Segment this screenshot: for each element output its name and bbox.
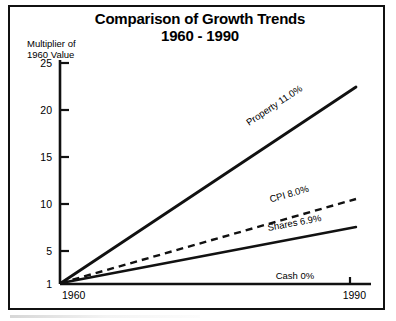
y-tick-label-25: 25	[40, 57, 52, 69]
y-tick-label-20: 20	[40, 104, 52, 116]
y-tick-label-1: 1	[46, 278, 52, 290]
y-tick-label-5: 5	[46, 245, 52, 257]
series-label-cpi: CPI 8.0%	[268, 183, 310, 205]
growth-trends-chart: Comparison of Growth Trends 1960 - 1990 …	[0, 0, 396, 321]
y-tick-label-15: 15	[40, 151, 52, 163]
series-line-property	[61, 87, 356, 283]
x-tick-label-1960: 1960	[62, 289, 86, 301]
bottom-edge-artifact	[10, 315, 200, 318]
y-tick-label-10: 10	[40, 198, 52, 210]
x-tick-label-1990: 1990	[343, 289, 367, 301]
plot-area: 25 20 15 10 5 1 1960 1990 Property 11.0%…	[0, 0, 396, 321]
series-label-property: Property 11.0%	[244, 82, 304, 127]
series-label-shares: Shares 6.9%	[267, 212, 323, 233]
series-label-cash: Cash 0%	[276, 270, 315, 281]
